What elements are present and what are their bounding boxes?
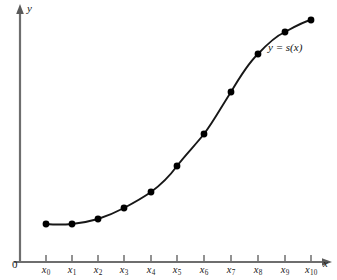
tick-label-x2: x2 xyxy=(94,265,102,276)
tick-label-x5: x5 xyxy=(173,265,181,276)
tick-label-x0: x0 xyxy=(42,265,50,276)
tick-label-base: x xyxy=(227,264,232,275)
data-point-x10 xyxy=(308,17,315,24)
curve-equation-label: y = s(x) xyxy=(268,42,302,53)
tick-label-base: x xyxy=(68,264,73,275)
y-axis-arrowhead xyxy=(16,4,24,14)
tick-label-x4: x4 xyxy=(147,265,155,276)
x-axis-label: x xyxy=(323,258,328,269)
data-point-x8 xyxy=(255,51,262,58)
tick-label-base: x xyxy=(147,264,152,275)
tick-label-subscript: 5 xyxy=(178,269,182,277)
data-point-x5 xyxy=(174,163,181,170)
spline-figure: y x 0 y = s(x) x0 x1 x2 x3 x4 x5 x6 x7 x… xyxy=(0,0,337,280)
tick-label-base: x xyxy=(281,264,286,275)
data-point-x3 xyxy=(121,205,128,212)
tick-label-subscript: 7 xyxy=(232,269,236,277)
tick-label-base: x xyxy=(254,264,259,275)
tick-label-subscript: 2 xyxy=(99,269,103,277)
tick-label-subscript: 3 xyxy=(125,269,129,277)
y-axis-label: y xyxy=(27,3,32,14)
tick-label-subscript: 9 xyxy=(286,269,290,277)
tick-label-subscript: 10 xyxy=(310,269,317,277)
data-point-x7 xyxy=(228,89,235,96)
tick-label-x1: x1 xyxy=(68,265,76,276)
tick-label-x3: x3 xyxy=(120,265,128,276)
data-point-x4 xyxy=(148,189,155,196)
tick-label-x7: x7 xyxy=(227,265,235,276)
tick-label-base: x xyxy=(200,264,205,275)
tick-label-subscript: 4 xyxy=(152,269,156,277)
tick-label-subscript: 1 xyxy=(73,269,77,277)
tick-label-base: x xyxy=(42,264,47,275)
origin-label: 0 xyxy=(12,259,18,270)
data-point-x2 xyxy=(95,216,102,223)
tick-label-x9: x9 xyxy=(281,265,289,276)
tick-label-x6: x6 xyxy=(200,265,208,276)
tick-label-subscript: 6 xyxy=(205,269,209,277)
data-point-x6 xyxy=(201,131,208,138)
tick-label-base: x xyxy=(120,264,125,275)
data-point-x9 xyxy=(282,29,289,36)
tick-label-subscript: 8 xyxy=(259,269,263,277)
tick-label-subscript: 0 xyxy=(47,269,51,277)
tick-label-base: x xyxy=(173,264,178,275)
tick-label-x8: x8 xyxy=(254,265,262,276)
data-point-x1 xyxy=(69,221,76,228)
tick-label-base: x xyxy=(305,264,310,275)
data-point-x0 xyxy=(43,221,50,228)
tick-label-base: x xyxy=(94,264,99,275)
tick-label-x10: x10 xyxy=(305,265,317,276)
